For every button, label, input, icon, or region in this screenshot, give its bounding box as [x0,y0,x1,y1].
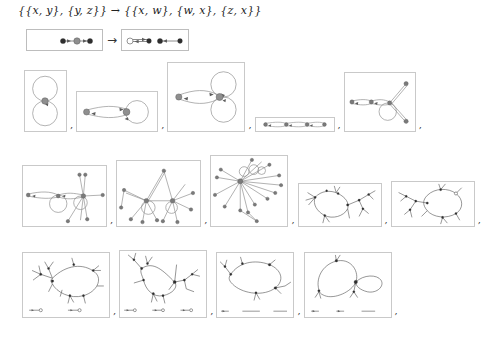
graph-panel-step-11[interactable] [22,252,110,318]
separator-comma: , [416,119,425,130]
graph-step-1 [25,71,66,131]
separator-comma: , [201,214,210,225]
page-title: {{x, y}, {y, z}} → {{x, w}, {w, x}, {z, … [18,4,262,17]
graph-panel-step-4[interactable] [255,117,335,132]
graph-panel-step-10[interactable] [391,181,475,227]
separator-comma: , [245,119,254,130]
rule-lhs-graph [27,30,102,52]
graph-panel-step-1[interactable] [24,70,67,132]
output-canvas: {{x, y}, {y, z}} → {{x, w}, {w, x}, {z, … [0,0,501,339]
cell-step-14: , [304,252,401,318]
graph-step-8 [211,156,287,226]
graph-step-9 [299,184,381,226]
graph-step-13 [217,253,293,317]
cell-step-9: , [298,183,391,227]
separator-comma: , [475,214,484,225]
graph-panel-step-5[interactable] [344,72,416,132]
graph-step-5 [345,73,415,131]
cell-step-5: , [344,72,425,132]
graph-panel-step-14[interactable] [304,252,392,318]
graph-panel-step-12[interactable] [119,250,207,318]
graph-step-2 [77,92,157,131]
graph-panel-step-6[interactable] [22,165,107,227]
rule-arrow-icon: → [103,33,121,47]
cell-step-1: , [24,70,76,132]
separator-comma: , [158,119,167,130]
separator-comma: , [382,214,391,225]
separator-comma: , [107,214,116,225]
graph-step-10 [392,182,474,226]
graph-step-7 [117,161,200,226]
rule-rhs-graph [122,30,188,52]
graph-step-12 [120,251,206,317]
cell-step-13: , [216,252,303,318]
graph-panel-step-7[interactable] [116,160,201,227]
separator-comma: , [67,119,76,130]
graph-step-14 [305,253,391,317]
cell-step-3: , [167,62,254,132]
separator-comma: , [110,305,119,316]
cell-step-12: , [119,250,216,318]
rule-lhs-panel[interactable] [26,29,103,51]
graph-panel-step-3[interactable] [167,62,245,132]
row-generations-1: , , [24,62,425,132]
graph-panel-step-2[interactable] [76,91,158,132]
cell-step-6: , [22,165,116,227]
cell-step-2: , [76,91,167,132]
cell-step-8: , [210,155,297,227]
graph-step-4 [256,118,334,131]
row-generations-2: , [22,155,484,227]
graph-step-3 [168,63,244,131]
cell-step-10: , [391,181,484,227]
graph-panel-step-9[interactable] [298,183,382,227]
rule-rhs-panel[interactable] [121,29,189,51]
separator-comma: , [335,119,344,130]
graph-panel-step-13[interactable] [216,252,294,318]
rewrite-rule: → [26,29,189,51]
separator-comma: , [207,305,216,316]
cell-step-11: , [22,252,119,318]
separator-comma: , [392,305,401,316]
row-generations-3: , [22,250,401,318]
cell-step-7: , [116,160,210,227]
graph-step-6 [23,166,106,226]
graph-panel-step-8[interactable] [210,155,288,227]
graph-step-11 [23,253,109,317]
cell-step-4: , [255,117,344,132]
separator-comma: , [288,214,297,225]
separator-comma: , [294,305,303,316]
